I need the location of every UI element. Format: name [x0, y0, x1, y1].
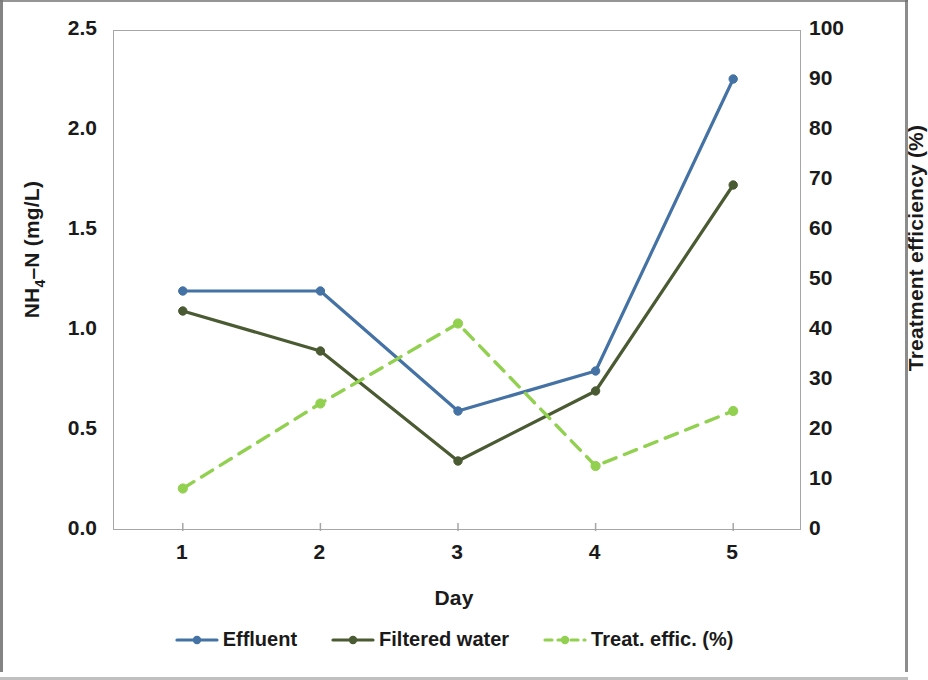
data-point-marker [453, 319, 462, 328]
y-axis-left-tick-label: 0.0 [17, 516, 97, 540]
y-axis-right-tick-label: 80 [809, 116, 879, 140]
x-axis-tick-label: 1 [152, 540, 212, 564]
x-axis-tick-label: 4 [565, 540, 625, 564]
legend-swatch-icon [543, 633, 587, 647]
y-axis-right-tick-label: 40 [809, 316, 879, 340]
y-axis-right-tick-label: 20 [809, 416, 879, 440]
plot-svg [114, 31, 802, 531]
data-point-marker [729, 406, 738, 415]
data-point-marker [316, 287, 324, 295]
data-point-marker [316, 399, 325, 408]
data-point-marker [729, 181, 737, 189]
y-axis-left-title: NH4–N (mg/L) [20, 120, 47, 380]
chart-legend: EffluentFiltered waterTreat. effic. (%) [0, 628, 908, 651]
scan-edge-top [0, 0, 908, 2]
y-axis-right-tick-label: 60 [809, 216, 879, 240]
data-point-marker [591, 461, 600, 470]
scan-edge-left [0, 0, 3, 672]
x-axis-title: Day [0, 586, 908, 610]
legend-item[interactable]: Filtered water [331, 628, 509, 651]
plot-area [113, 30, 801, 530]
y-axis-right-title: Treatment efficiency (%) [904, 98, 928, 398]
y-axis-right-tick-label: 0 [809, 516, 879, 540]
series-effluent [179, 75, 738, 415]
series-line [183, 79, 733, 411]
data-point-marker [591, 367, 599, 375]
data-point-marker [179, 307, 187, 315]
y-axis-right-tick-label: 10 [809, 466, 879, 490]
y-axis-right-tick-label: 90 [809, 66, 879, 90]
x-axis-tick-label: 2 [289, 540, 349, 564]
y-axis-left-tick-label: 2.5 [17, 16, 97, 40]
y-axis-right-tick-label: 100 [809, 16, 879, 40]
legend-item[interactable]: Treat. effic. (%) [543, 628, 733, 651]
data-point-marker [454, 457, 462, 465]
data-point-marker [591, 387, 599, 395]
data-point-marker [454, 407, 462, 415]
x-axis-tick-label: 5 [702, 540, 762, 564]
x-axis-tick-label: 3 [427, 540, 487, 564]
y-axis-right-tick-label: 50 [809, 266, 879, 290]
legend-item[interactable]: Effluent [175, 628, 297, 651]
data-point-marker [729, 75, 737, 83]
series-treat-effic [178, 319, 738, 493]
y-axis-right-tick-label: 30 [809, 366, 879, 390]
legend-label: Treat. effic. (%) [591, 628, 733, 651]
legend-label: Filtered water [379, 628, 509, 651]
legend-swatch-icon [331, 633, 375, 647]
data-point-marker [179, 287, 187, 295]
legend-label: Effluent [223, 628, 297, 651]
legend-swatch-icon [175, 633, 219, 647]
y-axis-right-tick-label: 70 [809, 166, 879, 190]
y-axis-left-tick-label: 0.5 [17, 416, 97, 440]
data-point-marker [178, 484, 187, 493]
data-point-marker [316, 347, 324, 355]
